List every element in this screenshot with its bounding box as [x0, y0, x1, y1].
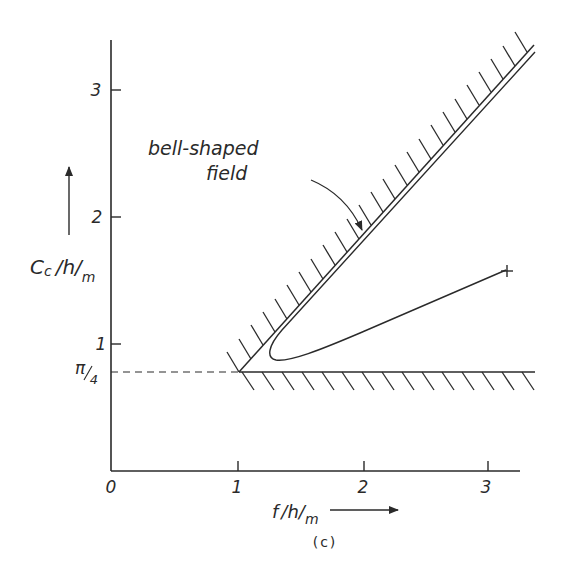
- x-label-f: f: [272, 501, 281, 522]
- annotation-line2: field: [206, 162, 248, 184]
- upper-hatching: [227, 32, 527, 372]
- y-label-C: C: [30, 255, 44, 279]
- svg-text:f/h/m: f/h/m: [272, 501, 319, 527]
- x-tick-labels: 0 1 2 3: [106, 477, 492, 497]
- upper-boundary: [239, 45, 535, 372]
- y-tick-label-3: 3: [91, 80, 102, 100]
- pi-denominator: 4: [90, 372, 98, 387]
- x-tick-label-2: 2: [358, 477, 369, 497]
- x-tick-label-1: 1: [232, 477, 243, 497]
- y-label-sub-m: m: [82, 269, 96, 285]
- x-axis-label: f/h/m: [272, 501, 398, 527]
- annotation-line1: bell-shaped: [148, 137, 259, 159]
- upper-boundary-outer: [239, 45, 534, 372]
- x-label-sub-m: m: [305, 511, 319, 527]
- y-axis-label: Cc/h/m: [30, 167, 95, 285]
- upper-boundary-inner-curve: [270, 52, 535, 360]
- annotation-pointer-arrow: [311, 180, 362, 230]
- y-label-h: /h/: [54, 255, 84, 279]
- y-tick-label-1: 1: [96, 334, 107, 354]
- x-tick-label-0: 0: [106, 477, 117, 497]
- bell-shaped-field-annotation: bell-shaped field: [148, 137, 362, 230]
- svg-text:Cc/h/m: Cc/h/m: [30, 255, 95, 285]
- y-tick-label-2: 2: [92, 207, 103, 227]
- y-tick-labels: 3 2 1 π 4: [75, 80, 107, 387]
- x-tick-label-3: 3: [481, 477, 492, 497]
- figure-canvas: 3 2 1 π 4 0 1 2 3 Cc/h/m f/h/m (c): [0, 0, 567, 582]
- lower-hatching: [242, 372, 534, 390]
- pi-numerator: π: [75, 358, 86, 378]
- y-tick-label-pi-over-4: π 4: [75, 358, 98, 387]
- y-label-sub-c: c: [44, 263, 52, 279]
- x-label-h: /h/: [279, 501, 306, 522]
- figure-caption: (c): [313, 534, 338, 550]
